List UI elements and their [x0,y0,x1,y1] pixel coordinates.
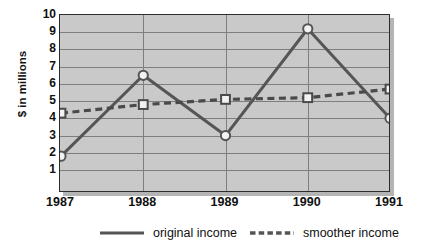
data-point-marker [221,131,230,140]
data-point-marker [139,71,148,80]
data-point-marker [303,93,312,102]
x-tick-label: 1989 [195,196,255,209]
x-tick-label: 1991 [359,196,419,209]
y-tick-label: 6 [30,77,56,89]
legend-item-smoother-income[interactable]: smoother income [250,223,399,243]
data-point-marker [385,114,390,123]
y-tick-label: 8 [30,42,56,54]
x-tick-label: 1987 [30,196,90,209]
y-tick-label: 5 [30,94,56,106]
x-tick-label: 1988 [112,196,172,209]
x-axis-tick-labels: 19871988198919901991 [0,196,436,216]
y-tick-label: 3 [30,129,56,141]
x-tick-label: 1990 [277,196,337,209]
data-point-marker [303,24,312,33]
data-point-marker [139,100,148,109]
plot-area [59,14,390,192]
legend-swatch-dashed [250,228,294,238]
legend-item-original-income[interactable]: original income [100,223,237,243]
legend-label: original income [153,226,237,240]
line-chart-figure: $ in millions 10987654321 19871988198919… [0,0,436,252]
y-tick-label: 2 [30,146,56,158]
data-point-marker [386,85,390,94]
legend-swatch-solid [100,228,144,238]
data-point-marker [60,152,66,161]
y-tick-label: 4 [30,111,56,123]
data-point-marker [221,95,230,104]
data-point-marker [60,109,65,118]
series-layer [60,15,390,192]
y-tick-label: 10 [30,8,56,20]
legend-label: smoother income [303,226,399,240]
y-tick-label: 9 [30,25,56,37]
y-tick-label: 7 [30,60,56,72]
y-tick-label: 1 [30,163,56,175]
y-axis-title: $ in millions [16,24,28,144]
chart-legend: original incomesmoother income [0,223,436,247]
